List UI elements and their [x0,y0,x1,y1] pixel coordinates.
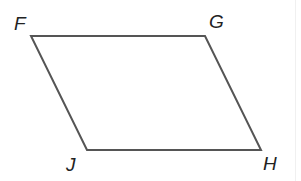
vertex-label-f: F [14,14,26,33]
vertex-label-j: J [66,155,76,174]
parallelogram-diagram [0,0,301,181]
frame-edge [295,0,296,181]
parallelogram-fghj [31,36,261,150]
vertex-label-h: H [263,154,277,173]
vertex-label-g: G [209,12,224,31]
